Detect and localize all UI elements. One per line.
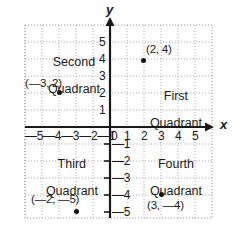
plot-point-minus2-minus5 [74, 209, 79, 214]
fourth-quadrant-line1: Fourth [158, 157, 194, 171]
y-tick-neg5: —5 [112, 206, 130, 218]
y-tick-neg1: —1 [112, 138, 130, 150]
x-axis-label: x [220, 118, 227, 131]
y-tick-neg4: —4 [112, 189, 130, 201]
plot-point-label-3-minus4: (3, —4) [147, 200, 184, 212]
plot-point-2-4 [141, 58, 146, 63]
y-axis-arrowhead [106, 17, 115, 26]
second-quadrant-line1: Second [53, 55, 95, 69]
y-axis-label: y [106, 3, 113, 16]
third-quadrant-line1: Third [58, 157, 86, 171]
plot-point-label-minus3-2: (—3, 2) [25, 78, 62, 90]
plot-point-3-minus4 [159, 192, 164, 197]
plot-point-label-2-4: (2, 4) [146, 44, 172, 56]
first-quadrant-line2: Quadrant [150, 116, 202, 130]
coordinate-plane-figure: y x —5—4—3—2—1 0 1 2 3 4 5 5 4 3 2 1 —1 … [0, 0, 236, 235]
y-tick-neg3: —3 [112, 172, 130, 184]
y-tick-neg2: —2 [112, 155, 130, 167]
first-quadrant-line1: First [164, 89, 188, 103]
fourth-quadrant-line2: Quadrant [150, 184, 202, 198]
plot-point-label-minus2-minus5: (—2, —5) [31, 194, 79, 206]
first-quadrant-label: First Quadrant [131, 76, 207, 144]
second-quadrant-label: Second Quadrant [31, 42, 103, 110]
plot-point-minus3-2 [57, 90, 62, 95]
x-tick-negatives: —5—4—3—2—1 [25, 130, 115, 142]
